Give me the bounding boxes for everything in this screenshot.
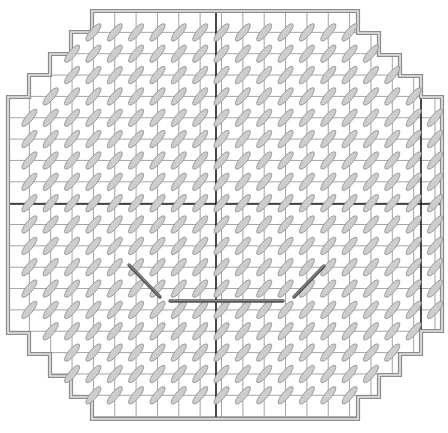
tent-stitches <box>20 22 445 406</box>
stitch-chart <box>0 0 448 433</box>
